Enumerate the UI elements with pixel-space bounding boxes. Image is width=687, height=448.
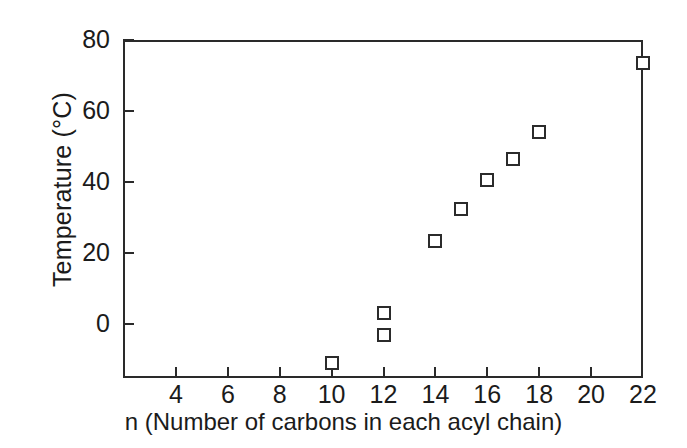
x-tick-mark xyxy=(279,367,281,378)
y-tick-label: 20 xyxy=(46,240,110,265)
data-point-marker xyxy=(506,152,520,166)
data-point-marker xyxy=(428,234,442,248)
x-tick-label: 12 xyxy=(359,381,409,407)
x-tick-mark xyxy=(486,367,488,378)
data-point-marker xyxy=(377,328,391,342)
x-tick-mark xyxy=(227,367,229,378)
x-tick-mark xyxy=(175,367,177,378)
x-tick-label: 10 xyxy=(307,381,357,407)
data-point-marker xyxy=(636,56,650,70)
x-tick-label: 22 xyxy=(618,381,668,407)
x-tick-label: 6 xyxy=(203,381,253,407)
data-point-marker xyxy=(377,306,391,320)
x-tick-mark xyxy=(538,367,540,378)
y-tick-label: 0 xyxy=(46,311,110,336)
y-tick-mark xyxy=(123,252,134,254)
x-tick-mark xyxy=(590,367,592,378)
data-point-marker xyxy=(532,125,546,139)
x-tick-label: 20 xyxy=(566,381,616,407)
y-tick-mark xyxy=(123,39,134,41)
y-tick-mark xyxy=(123,323,134,325)
y-tick-mark xyxy=(123,181,134,183)
scatter-plot-figure: Temperature (°C) 020406080 4681012141618… xyxy=(0,0,687,448)
data-point-marker xyxy=(454,202,468,216)
x-tick-label: 16 xyxy=(462,381,512,407)
x-tick-mark xyxy=(383,367,385,378)
x-axis-title: n (Number of carbons in each acyl chain) xyxy=(0,408,687,436)
y-tick-label: 60 xyxy=(46,98,110,123)
x-tick-label: 4 xyxy=(151,381,201,407)
data-point-marker xyxy=(480,173,494,187)
y-tick-label: 40 xyxy=(46,169,110,194)
y-tick-label: 80 xyxy=(46,27,110,52)
x-tick-label: 8 xyxy=(255,381,305,407)
x-tick-label: 18 xyxy=(514,381,564,407)
data-point-marker xyxy=(325,356,339,370)
x-tick-label: 14 xyxy=(410,381,460,407)
x-tick-mark xyxy=(434,367,436,378)
y-tick-mark xyxy=(123,110,134,112)
